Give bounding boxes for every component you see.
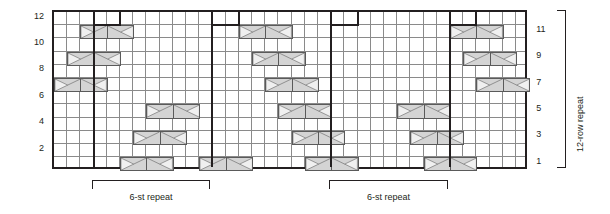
cable-cross-icon <box>54 78 81 92</box>
cable-cross-icon <box>424 157 451 171</box>
cable-cross-icon <box>490 52 517 66</box>
repeat-boundary-line <box>211 12 213 167</box>
cable-cross-icon <box>120 157 147 171</box>
repeat-step-horizontal <box>449 24 477 26</box>
cable-cross-icon <box>292 78 319 92</box>
st-repeat-bracket-1 <box>92 180 211 189</box>
row-label-left-8: 8 <box>18 64 44 73</box>
st-repeat-label-1: 6-st repeat <box>92 192 211 202</box>
cable-cross-icon <box>450 157 477 171</box>
cable-cross-icon <box>107 25 134 39</box>
row-label-left-10: 10 <box>18 38 44 47</box>
cable-cross-icon <box>424 104 451 118</box>
cable-cross-icon <box>226 157 253 171</box>
st-repeat-bracket-2 <box>329 180 448 189</box>
cable-cross-icon <box>173 104 200 118</box>
cable-cross-icon <box>94 52 121 66</box>
cable-cross-icon <box>292 131 319 145</box>
cable-cross-icon <box>305 157 332 171</box>
repeat-boundary-line <box>449 12 451 167</box>
repeat-boundary-line <box>93 12 95 167</box>
cable-cross-icon <box>146 157 173 171</box>
cable-cross-icon <box>67 52 94 66</box>
cable-cross-icon <box>450 25 477 39</box>
repeat-step-horizontal <box>211 24 239 26</box>
cable-cross-icon <box>239 25 266 39</box>
cable-cross-icon <box>476 78 503 92</box>
cable-cross-icon <box>278 104 305 118</box>
row-label-left-4: 4 <box>18 117 44 126</box>
chart-canvas: 12108642 1197531 6-st repeat6-st repeat1… <box>0 0 610 214</box>
cable-cross-icon <box>397 104 424 118</box>
stitch-grid[interactable] <box>52 10 527 169</box>
repeat-step-vertical <box>238 12 240 25</box>
cable-cross-icon <box>265 78 292 92</box>
repeat-step-vertical <box>357 12 359 25</box>
row-repeat-label: 12-row repeat <box>575 97 585 153</box>
row-label-left-12: 12 <box>18 12 44 21</box>
cable-cross-icon <box>410 131 437 145</box>
cable-cross-icon <box>133 131 160 145</box>
cable-cross-icon <box>278 52 305 66</box>
cable-cross-icon <box>463 52 490 66</box>
repeat-boundary-line <box>330 12 332 167</box>
cable-cross-icon <box>265 25 292 39</box>
row-label-left-6: 6 <box>18 91 44 100</box>
repeat-step-horizontal <box>93 24 121 26</box>
st-repeat-label-2: 6-st repeat <box>329 192 448 202</box>
repeat-step-vertical <box>475 12 477 25</box>
cable-cross-icon <box>146 104 173 118</box>
cable-cross-icon <box>503 78 530 92</box>
cable-cross-icon <box>305 104 332 118</box>
cable-cross-icon <box>160 131 187 145</box>
row-label-left-2: 2 <box>18 144 44 153</box>
cable-cross-icon <box>331 157 358 171</box>
repeat-step-horizontal <box>330 24 358 26</box>
row-repeat-bracket <box>557 10 566 168</box>
repeat-step-vertical <box>119 12 121 25</box>
cable-cross-icon <box>476 25 503 39</box>
cable-cross-icon <box>252 52 279 66</box>
